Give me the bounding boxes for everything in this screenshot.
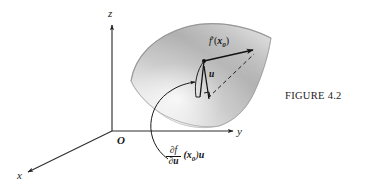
u-vector-label: u <box>209 70 214 80</box>
axis-label-y: y <box>237 126 242 137</box>
evaluation-point: (x0)u <box>184 149 205 163</box>
eval-open-x: (x <box>184 149 192 160</box>
figure-caption: FIGURE 4.2 <box>285 91 342 102</box>
partial-denominator: ∂u <box>167 157 181 167</box>
origin-label: O <box>117 135 125 146</box>
partial-numerator: ∂f <box>168 146 179 156</box>
directional-derivative-formula: ∂f ∂u (x0)u <box>166 146 204 167</box>
x-axis <box>28 131 112 172</box>
partial-fraction: ∂f ∂u <box>166 146 181 167</box>
figure-4-2: z y x O FIGURE 4.2 u f′(x0) ∂f ∂u (x0)u <box>0 0 376 192</box>
differential-close-paren: ) <box>226 35 229 46</box>
eval-u-vector: u <box>199 149 205 160</box>
axis-label-z: z <box>108 8 112 19</box>
differential-label: f′(x0) <box>209 36 229 49</box>
axis-label-x: x <box>17 170 22 181</box>
surface-sheen <box>131 24 271 128</box>
surface-patch <box>131 24 271 128</box>
